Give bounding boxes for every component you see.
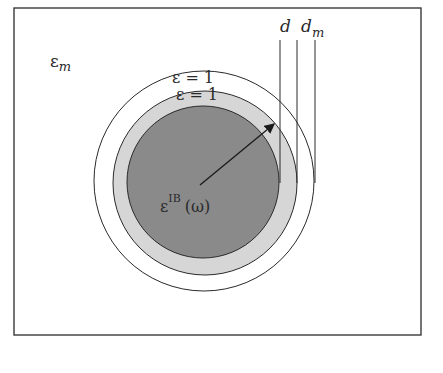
diagram-canvas: εm ε = 1 ε = 1 εIB(ω) d dm bbox=[0, 0, 443, 373]
inner-shell-label: ε = 1 bbox=[176, 85, 218, 104]
dim-label-d: d bbox=[280, 16, 291, 36]
